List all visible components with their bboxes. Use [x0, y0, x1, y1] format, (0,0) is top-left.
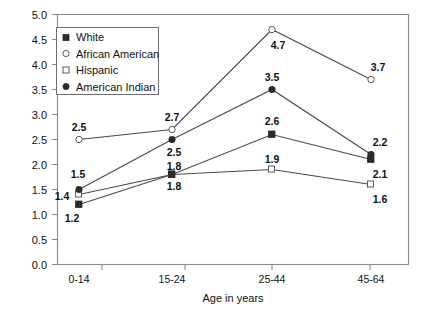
legend-marker-open-square-icon [63, 67, 69, 73]
legend-label-white: White [76, 31, 104, 43]
series-markers-hispanic [76, 166, 374, 197]
y-axis-tick-labels: 5.0 4.5 4.0 3.5 3.0 2.5 2.0 1.5 1.0 0.5 … [32, 9, 47, 271]
legend-marker-filled-circle-icon [63, 83, 69, 89]
data-label: 2.5 [72, 121, 87, 133]
data-label: 2.6 [265, 115, 280, 127]
x-axis-title: Age in years [202, 292, 264, 304]
y-tick-label: 0.0 [32, 259, 47, 271]
series-line-american-indian [79, 90, 371, 190]
data-label: 1.8 [167, 180, 182, 192]
y-tick-label: 3.5 [32, 84, 47, 96]
data-label: 2.5 [167, 146, 182, 158]
data-label: 2.7 [165, 111, 180, 123]
data-point-marker [269, 166, 275, 172]
y-tick-label: 0.5 [32, 234, 47, 246]
y-tick-label: 3.0 [32, 109, 47, 121]
data-point-marker [169, 136, 175, 142]
x-tick-label: 15-24 [159, 273, 186, 285]
data-label: 3.5 [265, 71, 280, 83]
y-tick-label: 1.0 [32, 209, 47, 221]
x-tick-label: 0-14 [68, 273, 89, 285]
data-point-marker [269, 26, 275, 32]
legend: White African American Hispanic American… [57, 28, 160, 95]
chart-canvas: 5.0 4.5 4.0 3.5 3.0 2.5 2.0 1.5 1.0 0.5 … [0, 0, 429, 311]
y-tick-label: 1.5 [32, 184, 47, 196]
data-point-marker [368, 76, 374, 82]
data-label: 4.7 [271, 39, 286, 51]
data-point-marker [269, 131, 276, 138]
x-axis-tick-labels: 0-14 15-24 25-44 45-64 [68, 273, 384, 285]
data-label: 1.6 [373, 193, 388, 205]
data-point-marker [76, 186, 82, 192]
data-label: 1.8 [167, 160, 182, 172]
data-label: 3.7 [371, 61, 386, 73]
line-chart: 5.0 4.5 4.0 3.5 3.0 2.5 2.0 1.5 1.0 0.5 … [0, 0, 429, 311]
data-labels-white: 1.2 1.8 2.6 2.1 [65, 115, 388, 224]
data-point-marker [368, 181, 374, 187]
legend-label-african-american: African American [76, 48, 159, 60]
x-tick-label: 45-64 [358, 273, 385, 285]
y-tick-label: 2.5 [32, 134, 47, 146]
legend-label-american-indian: American Indian [76, 81, 156, 93]
y-tick-label: 4.5 [32, 34, 47, 46]
x-axis-ticks [102, 265, 370, 271]
legend-marker-open-circle-icon [63, 50, 69, 56]
data-point-marker [169, 126, 175, 132]
data-label: 1.5 [71, 168, 86, 180]
data-point-marker [76, 136, 82, 142]
legend-label-hispanic: Hispanic [76, 64, 119, 76]
y-tick-label: 2.0 [32, 159, 47, 171]
data-label: 1.4 [55, 190, 70, 202]
legend-marker-filled-square-icon [63, 35, 69, 41]
data-label: 1.2 [65, 212, 80, 224]
y-tick-label: 4.0 [32, 59, 47, 71]
data-point-marker [269, 86, 275, 92]
series-line-white [79, 135, 371, 205]
data-point-marker [76, 201, 83, 208]
series-markers-american-indian [76, 86, 374, 192]
data-label: 1.9 [265, 153, 280, 165]
data-point-marker [368, 151, 374, 157]
x-tick-label: 25-44 [259, 273, 286, 285]
y-tick-label: 5.0 [32, 9, 47, 21]
series-markers-white [76, 131, 375, 208]
data-label: 2.2 [373, 136, 388, 148]
data-label: 2.1 [373, 168, 388, 180]
